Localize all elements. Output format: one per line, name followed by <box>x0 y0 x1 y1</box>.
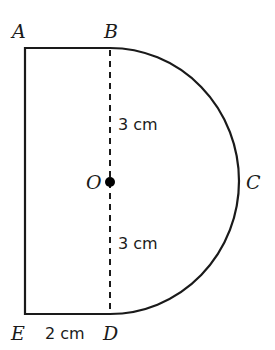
d-shape-diagram: A B C D E O 3 cm 3 cm 2 cm <box>0 0 275 350</box>
dimension-od: 3 cm <box>118 234 158 253</box>
label-c: C <box>246 171 261 193</box>
dimension-ob: 3 cm <box>118 115 158 134</box>
label-e: E <box>10 322 25 344</box>
label-o: O <box>86 171 102 193</box>
label-a: A <box>10 20 26 42</box>
dimension-ed: 2 cm <box>45 324 85 343</box>
center-point-o <box>105 177 115 187</box>
semicircle-arc-bcd <box>110 48 239 314</box>
label-d: D <box>102 322 118 344</box>
label-b: B <box>103 20 118 42</box>
